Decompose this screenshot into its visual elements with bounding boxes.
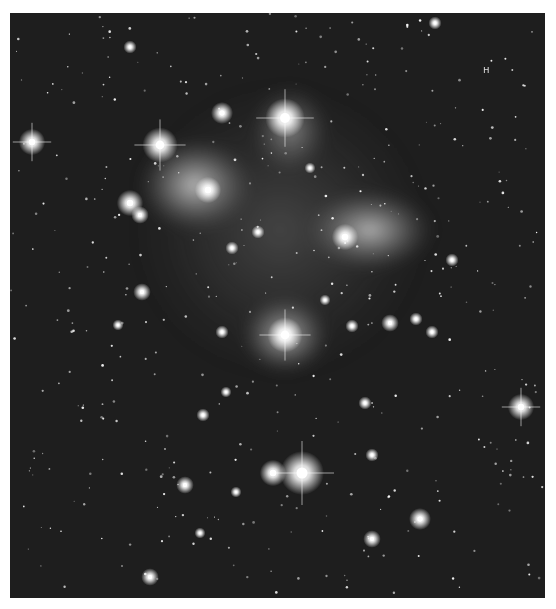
plate-mark: ʜ	[483, 64, 490, 75]
pleiades-photograph: ʜ	[10, 13, 545, 598]
star-field: ʜ	[10, 13, 545, 598]
